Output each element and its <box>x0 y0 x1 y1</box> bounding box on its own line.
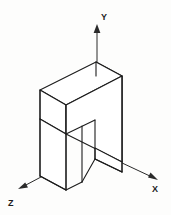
arch-block-solid <box>40 62 122 190</box>
arrow-up-icon <box>94 24 101 33</box>
technical-drawing-figure: Y X Z <box>0 0 171 215</box>
arrow-down-right-icon <box>148 172 158 180</box>
axis-group-y: Y <box>94 12 107 62</box>
z-axis-line <box>24 177 41 186</box>
x-axis-label: X <box>152 184 158 194</box>
y-axis-label: Y <box>101 12 107 22</box>
x-axis-line <box>120 162 152 177</box>
axis-group-z: Z <box>8 177 41 208</box>
axis-group-x: X <box>120 162 158 194</box>
left-leg-bottom-right-edge <box>66 182 82 190</box>
inner-gap-bottom-edge <box>82 159 95 182</box>
arrow-down-left-icon <box>18 182 28 189</box>
isometric-drawing-canvas: Y X Z <box>0 0 171 215</box>
z-axis-label: Z <box>8 198 14 208</box>
